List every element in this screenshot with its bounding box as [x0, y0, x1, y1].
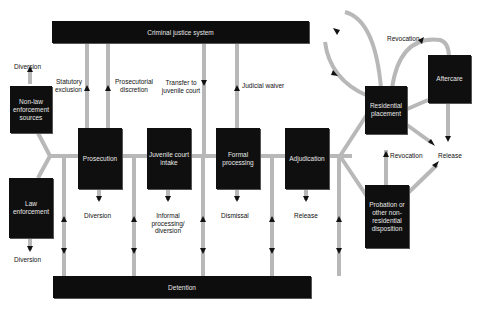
- label-prosecutorial-discretion: Prosecutorial discretion: [111, 78, 157, 93]
- label-transfer-to-juvenile-court: Transfer to juvenile court: [160, 79, 202, 94]
- node-label: Non-law enforcement sources: [10, 98, 52, 122]
- node-label: Adjudication: [289, 155, 324, 163]
- detention-bar: Detention: [53, 276, 311, 298]
- label-diversion-bottom: Diversion: [14, 256, 41, 264]
- label-release-right: Release: [438, 152, 462, 160]
- node-formal-processing: Formal processing: [216, 128, 260, 189]
- node-prosecution: Prosecution: [78, 128, 122, 189]
- criminal-justice-system-bar: Criminal justice system: [52, 21, 309, 43]
- detention-label: Detention: [168, 284, 196, 291]
- node-label: Probation or other non-residential dispo…: [365, 201, 409, 233]
- label-revocation-mid: Revocation: [390, 152, 423, 160]
- node-label: Aftercare: [436, 75, 462, 83]
- node-probation: Probation or other non-residential dispo…: [365, 185, 409, 248]
- node-label: Juvenile court intake: [147, 151, 191, 167]
- node-label: Formal processing: [216, 151, 260, 167]
- label-statutory-exclusion: Statutory exclusion: [52, 78, 82, 93]
- label-informal-processing: Informal processing/ diversion: [148, 212, 188, 235]
- criminal-justice-system-label: Criminal justice system: [147, 29, 213, 36]
- node-label: Law enforcement: [9, 200, 53, 216]
- node-residential-placement: Residential placement: [365, 86, 407, 134]
- label-diversion-top: Diversion: [14, 63, 41, 71]
- label-release-adjudication: Release: [294, 212, 318, 220]
- label-revocation-top: Revocation: [387, 35, 420, 43]
- node-label: Prosecution: [83, 155, 117, 163]
- node-non-law-enforcement: Non-law enforcement sources: [10, 86, 52, 133]
- node-label: Residential placement: [365, 102, 407, 118]
- node-aftercare: Aftercare: [428, 55, 471, 103]
- node-law-enforcement: Law enforcement: [9, 178, 53, 238]
- flow-diagram: Criminal justice system Detention Non-la…: [0, 0, 481, 311]
- label-judicial-waiver: Judicial waiver: [242, 82, 284, 90]
- label-prosecution-diversion: Diversion: [84, 212, 111, 220]
- node-adjudication: Adjudication: [285, 128, 329, 189]
- label-dismissal: Dismissal: [221, 212, 249, 220]
- node-juvenile-court-intake: Juvenile court intake: [147, 128, 191, 189]
